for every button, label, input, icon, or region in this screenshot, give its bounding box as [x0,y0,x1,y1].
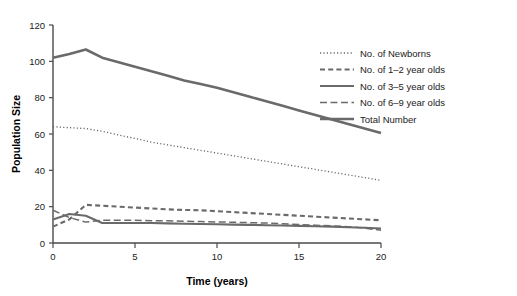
series-group [53,50,381,231]
y-tick-label: 40 [34,165,45,176]
series-line-0 [53,127,381,181]
y-axis-title: Population Size [10,95,22,173]
x-axis-ticks: 05101520 [50,243,386,262]
x-axis-title: Time (years) [186,275,248,287]
x-tick-label: 5 [132,251,137,262]
legend-label-1: No. of 1–2 year olds [360,64,445,75]
series-line-2 [53,214,381,229]
x-tick-label: 0 [50,251,55,262]
y-tick-label: 0 [40,238,45,249]
y-tick-label: 60 [34,129,45,140]
x-tick-label: 15 [294,251,305,262]
y-tick-label: 120 [29,20,45,31]
legend-label-3: No. of 6–9 year olds [360,97,445,108]
chart-legend: No. of NewbornsNo. of 1–2 year oldsNo. o… [320,48,445,125]
y-tick-label: 80 [34,92,45,103]
population-line-chart: 020406080100120 05101520 Population Size… [0,0,517,296]
x-tick-label: 10 [212,251,223,262]
x-tick-label: 20 [376,251,387,262]
y-axis-ticks: 020406080100120 [29,20,53,249]
chart-figure: 020406080100120 05101520 Population Size… [0,0,517,296]
legend-label-2: No. of 3–5 year olds [360,81,445,92]
legend-label-4: Total Number [360,114,417,125]
series-line-4 [53,50,381,134]
y-tick-label: 100 [29,56,45,67]
y-tick-label: 20 [34,201,45,212]
legend-label-0: No. of Newborns [360,48,431,59]
